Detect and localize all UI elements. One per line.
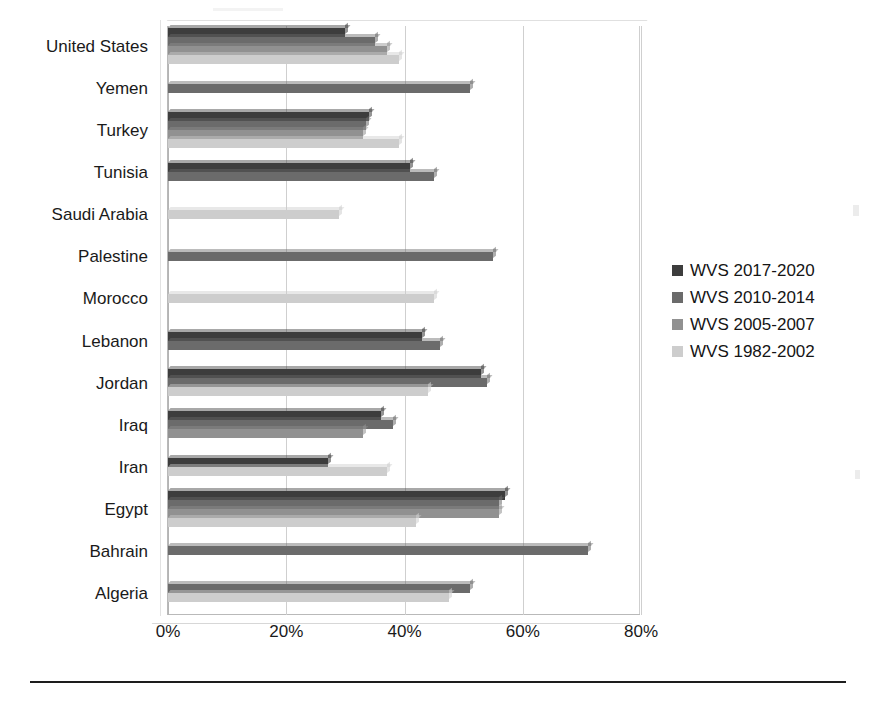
bar-saudi-arabia-wvs-1982-2002 xyxy=(168,210,339,219)
bar-top-face xyxy=(168,169,440,172)
legend-swatch-icon xyxy=(672,265,683,276)
bar-palestine-wvs-2010-2014 xyxy=(168,252,493,261)
y-axis-label-saudi-arabia: Saudi Arabia xyxy=(52,206,148,223)
y-axis-label-bahrain: Bahrain xyxy=(89,543,148,560)
y-axis-label-egypt: Egypt xyxy=(105,501,148,518)
bar-top-face xyxy=(168,506,505,509)
bar-end-face xyxy=(328,452,331,463)
x-tick-1: 20% xyxy=(269,622,303,642)
bar-end-face xyxy=(381,406,384,417)
scan-artifact xyxy=(855,470,860,479)
bar-top-face xyxy=(168,338,445,341)
y-axis-category-labels: United StatesYemenTurkeyTunisiaSaudi Ara… xyxy=(0,26,160,615)
bar-top-face xyxy=(168,455,333,458)
bar-top-face xyxy=(168,464,392,467)
bar-end-face xyxy=(363,125,366,136)
bar-top-face xyxy=(168,291,440,294)
legend-swatch-icon xyxy=(672,292,683,303)
bar-end-face xyxy=(487,373,490,384)
legend-label: WVS 2005-2007 xyxy=(690,316,815,333)
y-axis-label-morocco: Morocco xyxy=(83,290,148,307)
bar-top-face xyxy=(168,384,434,387)
y-axis-label-iran: Iran xyxy=(119,459,148,476)
chart-legend: WVS 2017-2020WVS 2010-2014WVS 2005-2007W… xyxy=(672,258,872,366)
bar-top-face xyxy=(168,43,392,46)
bar-end-face xyxy=(363,424,366,435)
bar-end-face xyxy=(416,512,419,523)
bar-end-face xyxy=(434,289,437,300)
bar-top-face xyxy=(168,488,511,491)
bar-top-face xyxy=(168,426,369,429)
bar-tunisia-wvs-2010-2014 xyxy=(168,172,434,181)
bar-end-face xyxy=(345,23,348,34)
bar-end-face xyxy=(499,503,502,514)
y-axis-label-algeria: Algeria xyxy=(95,585,148,602)
bar-top-face xyxy=(168,109,375,112)
bar-top-face xyxy=(168,366,487,369)
bar-end-face xyxy=(387,461,390,472)
legend-item-1: WVS 2010-2014 xyxy=(672,285,872,309)
x-tick-2: 40% xyxy=(387,622,421,642)
bar-morocco-wvs-1982-2002 xyxy=(168,294,434,303)
bar-end-face xyxy=(399,50,402,61)
bar-end-face xyxy=(505,485,508,496)
bar-top-face xyxy=(168,408,386,411)
bar-end-face xyxy=(449,588,452,599)
legend-label: WVS 2010-2014 xyxy=(690,289,815,306)
y-axis-label-yemen: Yemen xyxy=(96,80,148,97)
bar-top-face xyxy=(168,543,593,546)
bar-end-face xyxy=(481,364,484,375)
legend-swatch-icon xyxy=(672,319,683,330)
bar-united-states-wvs-1982-2002 xyxy=(168,55,399,64)
bar-end-face xyxy=(434,167,437,178)
bar-series-layer xyxy=(168,26,641,615)
legend-label: WVS 1982-2002 xyxy=(690,343,815,360)
x-tick-0: 0% xyxy=(156,622,181,642)
bar-iran-wvs-1982-2002 xyxy=(168,467,387,476)
legend-item-0: WVS 2017-2020 xyxy=(672,258,872,282)
y-axis-label-jordan: Jordan xyxy=(96,375,148,392)
bar-top-face xyxy=(168,118,372,121)
bar-top-face xyxy=(168,34,380,37)
bar-end-face xyxy=(493,247,496,258)
bar-end-face xyxy=(369,107,372,118)
bar-end-face xyxy=(410,158,413,169)
bar-top-face xyxy=(168,25,351,28)
bar-end-face xyxy=(440,335,443,346)
y-axis-label-united-states: United States xyxy=(46,38,148,55)
bar-top-face xyxy=(168,329,428,332)
x-tick-3: 60% xyxy=(506,622,540,642)
bar-end-face xyxy=(375,32,378,43)
y-axis-label-iraq: Iraq xyxy=(119,417,148,434)
bar-chart: United StatesYemenTurkeyTunisiaSaudi Ara… xyxy=(0,0,881,707)
x-tick-4: 80% xyxy=(624,622,658,642)
scan-artifact xyxy=(853,205,859,216)
bar-end-face xyxy=(470,78,473,89)
bar-top-face xyxy=(168,207,345,210)
scan-artifact xyxy=(213,8,283,11)
bar-jordan-wvs-1982-2002 xyxy=(168,387,428,396)
bar-top-face xyxy=(168,581,475,584)
bar-end-face xyxy=(366,116,369,127)
bar-egypt-wvs-1982-2002 xyxy=(168,518,416,527)
bar-top-face xyxy=(168,52,404,55)
bar-top-face xyxy=(168,81,475,84)
bar-top-face xyxy=(168,515,422,518)
bar-lebanon-wvs-2010-2014 xyxy=(168,341,440,350)
bar-end-face xyxy=(399,134,402,145)
bar-top-face xyxy=(168,375,493,378)
bar-top-face xyxy=(168,249,499,252)
bar-yemen-wvs-2010-2014 xyxy=(168,84,470,93)
bar-algeria-wvs-1982-2002 xyxy=(168,593,449,602)
bar-iraq-wvs-2005-2007 xyxy=(168,429,363,438)
bar-top-face xyxy=(168,127,369,130)
footer-divider xyxy=(30,681,846,683)
y-axis-label-palestine: Palestine xyxy=(78,248,148,265)
bar-end-face xyxy=(428,382,431,393)
y-axis-label-tunisia: Tunisia xyxy=(94,164,148,181)
bar-top-face xyxy=(168,160,416,163)
legend-label: WVS 2017-2020 xyxy=(690,262,815,279)
y-axis-label-turkey: Turkey xyxy=(97,122,148,139)
bar-end-face xyxy=(393,415,396,426)
bar-top-face xyxy=(168,417,398,420)
